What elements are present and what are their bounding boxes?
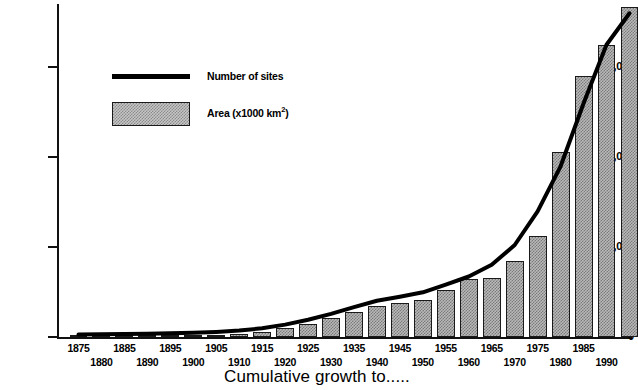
bar-undefined xyxy=(621,7,638,337)
x-tick-label-1905: 1905 xyxy=(196,343,236,354)
legend-hatch-swatch-icon xyxy=(112,102,190,126)
x-tick-label-1895: 1895 xyxy=(150,343,190,354)
bar-1955 xyxy=(437,290,455,337)
bar-1945 xyxy=(391,303,409,337)
bar-1910 xyxy=(230,334,248,337)
x-tick-label-1975: 1975 xyxy=(518,343,558,354)
bar-1890 xyxy=(138,335,156,337)
bar-1965 xyxy=(483,278,501,337)
bar-1880 xyxy=(92,335,110,337)
x-tick-label-1935: 1935 xyxy=(334,343,374,354)
bar-1970 xyxy=(506,261,524,338)
legend-label-area: Area (x1000 km2) xyxy=(207,103,289,120)
x-tick-label-1945: 1945 xyxy=(380,343,420,354)
chart-title: Cumulative growth to..... xyxy=(0,367,634,387)
bar-1985 xyxy=(575,76,593,337)
x-tick-label-1885: 1885 xyxy=(104,343,144,354)
x-tick-label-1955: 1955 xyxy=(426,343,466,354)
bar-1875 xyxy=(70,335,88,337)
legend-line-swatch-icon xyxy=(112,74,190,79)
bar-1925 xyxy=(299,324,317,338)
bar-1990 xyxy=(598,45,616,337)
bar-1980 xyxy=(552,152,570,337)
legend-label-number-of-sites: Number of sites xyxy=(207,69,283,83)
legend-item-number-of-sites: Number of sites xyxy=(112,66,342,100)
bar-1930 xyxy=(322,318,340,337)
bar-1940 xyxy=(368,306,386,338)
bar-1920 xyxy=(276,328,294,337)
x-tick-label-1965: 1965 xyxy=(472,343,512,354)
x-tick-label-1985: 1985 xyxy=(564,343,604,354)
chart-legend: Number of sites Area (x1000 km2) xyxy=(112,66,342,134)
bar-1895 xyxy=(161,335,179,337)
legend-label-area-text: Area (x1000 km xyxy=(207,107,281,119)
bar-1905 xyxy=(207,335,225,337)
x-tick-label-1925: 1925 xyxy=(288,343,328,354)
bar-1960 xyxy=(460,279,478,337)
bar-1915 xyxy=(253,332,271,337)
bar-1935 xyxy=(345,312,363,337)
legend-label-area-tail: ) xyxy=(285,107,288,119)
bar-1975 xyxy=(529,236,547,337)
bar-1950 xyxy=(414,300,432,337)
bar-1885 xyxy=(115,335,133,337)
x-tick-label-1875: 1875 xyxy=(58,343,98,354)
bar-1900 xyxy=(184,335,202,337)
legend-item-area: Area (x1000 km2) xyxy=(112,100,342,134)
plot-area xyxy=(57,0,632,339)
x-tick-label-1915: 1915 xyxy=(242,343,282,354)
